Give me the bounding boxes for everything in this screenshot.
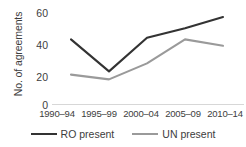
plot-area [52, 9, 242, 105]
y-axis-title: No. of agreements [12, 4, 24, 104]
series-lines [52, 9, 242, 105]
legend-label-un-present: UN present [162, 128, 215, 140]
line-chart: No. of agreements 60 40 20 0 1990–94 199… [0, 0, 246, 147]
chart-legend: RO present UN present [0, 126, 246, 142]
y-tick-label: 20 [26, 72, 48, 82]
y-tick-label: 40 [26, 40, 48, 50]
legend-item-ro-present: RO present [31, 128, 115, 140]
x-tick-label: 2010–14 [204, 108, 246, 122]
legend-label-ro-present: RO present [61, 128, 115, 140]
y-axis-tick-labels: 60 40 20 0 [26, 0, 48, 112]
x-axis-tick-labels: 1990–94 1995–99 2000–04 2005–09 2010–14 [36, 108, 246, 122]
x-tick-label: 2000–04 [120, 108, 162, 122]
legend-swatch-un-present [132, 133, 158, 135]
y-tick-label: 60 [26, 8, 48, 18]
legend-swatch-ro-present [31, 133, 57, 135]
x-tick-label: 1990–94 [36, 108, 78, 122]
x-tick-label: 1995–99 [78, 108, 120, 122]
legend-item-un-present: UN present [132, 128, 215, 140]
x-tick-label: 2005–09 [162, 108, 204, 122]
